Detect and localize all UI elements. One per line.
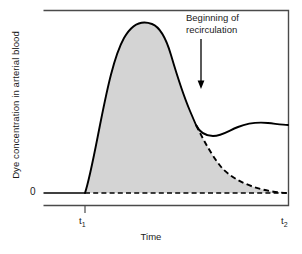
recirculation-annotation: Beginning of recirculation — [186, 12, 239, 35]
recirculation-annotation-line2: recirculation — [186, 24, 239, 36]
recirculation-arrow-icon — [198, 39, 205, 89]
recirculation-annotation-line1: Beginning of — [186, 12, 239, 24]
chart-canvas — [0, 0, 302, 254]
x-tick-label-t2: t2 — [281, 215, 288, 228]
dye-dilution-figure: Dye concentration in arterial blood 0 t1… — [0, 0, 302, 254]
x-tick-label-t1-subscript: 1 — [82, 221, 86, 228]
x-axis-title: Time — [0, 231, 302, 242]
x-tick-label-t1: t1 — [79, 215, 86, 228]
y-tick-label-zero: 0 — [30, 186, 36, 197]
dye-dilution-area — [85, 23, 287, 193]
x-tick-label-t2-subscript: 2 — [284, 221, 288, 228]
y-axis-title: Dye concentration in arterial blood — [10, 5, 21, 205]
